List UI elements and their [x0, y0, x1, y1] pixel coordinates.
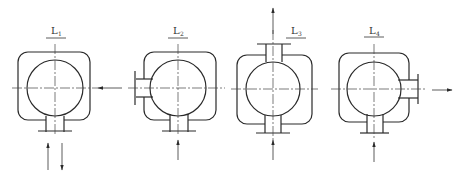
label-text: L — [51, 25, 58, 36]
view-l2: L 2 — [128, 25, 225, 160]
label-l3: L 3 — [286, 25, 306, 38]
label-text: L — [369, 25, 376, 36]
view-l4: L 4 — [331, 25, 452, 162]
label-l4: L 4 — [364, 25, 384, 37]
label-subscript: 4 — [376, 30, 380, 37]
housing-box — [144, 52, 216, 120]
housing-box — [18, 52, 90, 120]
label-l1: L 1 — [46, 25, 66, 38]
label-subscript: 3 — [298, 30, 302, 37]
view-l1: L 1 — [12, 25, 122, 170]
view-l3: L 3 — [231, 8, 318, 160]
label-subscript: 2 — [180, 30, 184, 37]
label-l2: L 2 — [168, 25, 188, 38]
label-text: L — [173, 25, 180, 36]
nozzle-orientation-diagram: L 1 L 2 — [0, 0, 463, 174]
housing-box — [237, 55, 312, 124]
label-subscript: 1 — [58, 30, 62, 37]
label-text: L — [291, 25, 298, 36]
